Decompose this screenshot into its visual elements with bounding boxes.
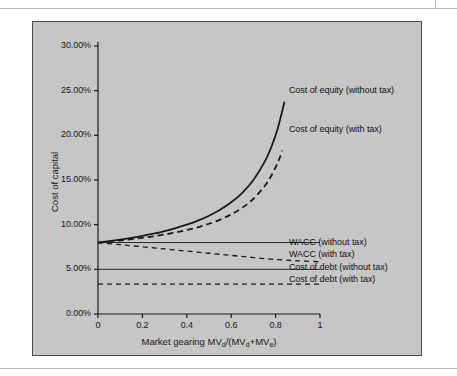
series-annotation-label: Cost of debt (with tax) xyxy=(289,274,375,284)
series-annotation-label: WACC (with tax) xyxy=(289,249,354,259)
x-axis-tick-label: 0.4 xyxy=(167,320,207,330)
x-axis-tick-label: 0.8 xyxy=(256,320,296,330)
series-annotation-label: Cost of equity (without tax) xyxy=(289,85,394,95)
chart-series-line xyxy=(98,151,282,243)
top-divider-rule xyxy=(0,8,457,9)
y-axis-tick-label: 5.00% xyxy=(66,263,91,273)
chart-figure-panel: 0.00%5.00%10.00%15.00%20.00%25.00%30.00%… xyxy=(32,21,422,356)
top-right-vertical-rule xyxy=(435,0,436,9)
y-axis-tick-label: 25.00% xyxy=(61,85,91,95)
y-axis-tick-label: 20.00% xyxy=(61,129,91,139)
x-axis-tick-label: 0.6 xyxy=(211,320,251,330)
chart-series-line xyxy=(98,102,284,243)
chart-series-line xyxy=(98,243,320,262)
x-axis-tick-label: 0 xyxy=(78,320,118,330)
y-axis-tick-label: 10.00% xyxy=(61,219,91,229)
y-axis-tick-label: 30.00% xyxy=(61,40,91,50)
chart-plot-svg xyxy=(33,22,421,355)
x-axis-tick-label: 0.2 xyxy=(122,320,162,330)
x-axis-title: Market gearing MVd/(MVd+MVe) xyxy=(58,336,360,347)
bottom-divider-rule xyxy=(0,368,457,369)
series-annotation-label: Cost of debt (without tax) xyxy=(289,262,388,272)
series-annotation-label: WACC (without tax) xyxy=(289,237,367,247)
x-axis-tick-label: 1 xyxy=(300,320,340,330)
page-root: 0.00%5.00%10.00%15.00%20.00%25.00%30.00%… xyxy=(0,0,457,376)
y-axis-tick-label: 0.00% xyxy=(66,308,91,318)
series-annotation-label: Cost of equity (with tax) xyxy=(289,124,382,134)
y-axis-title: Cost of capital xyxy=(49,152,60,212)
y-axis-tick-label: 15.00% xyxy=(61,174,91,184)
